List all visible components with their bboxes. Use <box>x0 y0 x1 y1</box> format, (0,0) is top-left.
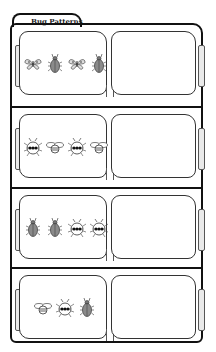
answer-panel[interactable] <box>111 114 196 178</box>
row-divider <box>10 187 203 189</box>
tape-decoration <box>198 209 205 251</box>
bug-beetle <box>46 54 64 74</box>
tape-decoration <box>198 45 205 87</box>
bug-beetle <box>24 218 42 238</box>
bug-sequence <box>24 137 108 157</box>
bug-ladybug <box>24 137 42 157</box>
bee-icon <box>90 141 108 154</box>
moth-icon <box>24 58 42 70</box>
bug-ladybug <box>68 218 86 238</box>
moth-icon <box>68 58 86 70</box>
answer-panel[interactable] <box>111 31 196 95</box>
beetle-icon <box>92 54 106 74</box>
ladybug-icon <box>24 138 42 156</box>
ladybug-icon <box>68 219 86 237</box>
tape-decoration <box>198 128 205 170</box>
row-divider <box>10 106 203 108</box>
beetle-icon <box>26 218 40 238</box>
bug-sequence <box>24 54 108 74</box>
row-divider <box>10 267 203 269</box>
pattern-panel <box>19 195 107 259</box>
bug-beetle <box>78 298 96 318</box>
tape-decoration <box>198 289 205 331</box>
beetle-icon <box>48 54 62 74</box>
beetle-icon <box>48 218 62 238</box>
ladybug-icon <box>56 299 74 317</box>
bug-sequence <box>24 218 108 238</box>
bug-ladybug <box>68 137 86 157</box>
answer-panel[interactable] <box>111 275 196 339</box>
bug-moth <box>24 54 42 74</box>
pattern-panel <box>19 31 107 95</box>
pattern-panel <box>19 114 107 178</box>
bug-bee <box>90 137 108 157</box>
bee-icon <box>34 302 52 315</box>
bug-beetle <box>90 54 108 74</box>
beetle-icon <box>80 298 94 318</box>
ladybug-icon <box>90 219 108 237</box>
bug-bee <box>34 298 52 318</box>
answer-panel[interactable] <box>111 195 196 259</box>
bug-sequence <box>34 298 96 318</box>
bug-ladybug <box>56 298 74 318</box>
pattern-panel <box>19 275 107 339</box>
bug-moth <box>68 54 86 74</box>
bug-ladybug <box>90 218 108 238</box>
bug-beetle <box>46 218 64 238</box>
bug-bee <box>46 137 64 157</box>
ladybug-icon <box>68 138 86 156</box>
bee-icon <box>46 141 64 154</box>
